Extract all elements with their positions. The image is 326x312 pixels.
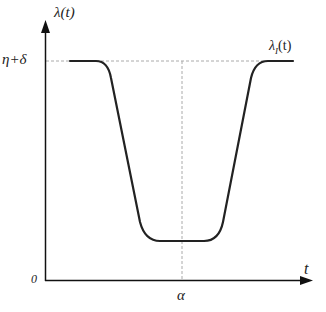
y-axis-arrowhead xyxy=(41,20,50,33)
y-axis-label-text: λ(t) xyxy=(54,4,75,20)
curve-label-arg: (t) xyxy=(278,38,291,53)
origin-label: 0 xyxy=(31,272,37,287)
curve-label: λI(t) xyxy=(269,38,291,56)
alpha-label: α xyxy=(177,287,185,304)
level-label: η+δ xyxy=(2,51,27,68)
x-axis-label: t xyxy=(304,260,308,278)
y-axis-label: λ(t) xyxy=(54,4,75,21)
